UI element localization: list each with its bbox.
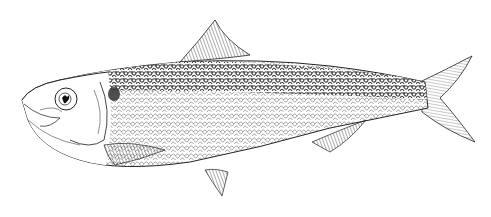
dorsal-fin — [180, 20, 250, 62]
tail-fin — [420, 56, 475, 142]
shoulder-spot — [108, 87, 120, 101]
fish-illustration — [0, 0, 491, 217]
pelvic-fin — [205, 169, 228, 196]
fish-drawing — [0, 0, 491, 217]
